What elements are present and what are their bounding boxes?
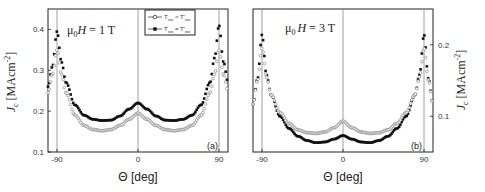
svg-text:0: 0 [136,155,141,164]
legend: Tsro < T'sro Tsro = T'sro [145,10,195,35]
series-open-circles [47,49,229,133]
svg-text:0.2: 0.2 [33,107,45,116]
field-annotation-a: μ0H = 1 T [67,23,116,39]
svg-text:-90: -90 [256,155,268,164]
figure: 0.10.20.30.4 -90090 μ0H = 1 T (a) Θ [deg… [0,0,485,192]
x-axis-ticks-a: -90090 [51,149,224,164]
open-circle-marker-icon [153,15,157,19]
svg-text:0.1: 0.1 [438,112,450,121]
svg-text:0: 0 [341,155,346,164]
series-open-circles [252,47,434,135]
y-axis-label-b: Jc [MAcm-2] [453,50,470,111]
svg-text:0.4: 0.4 [33,25,45,34]
y-axis-label-a: Jc [MAcm-2] [3,52,20,113]
svg-text:90: 90 [215,155,224,164]
x-axis-label-b: Θ [deg] [323,170,362,184]
svg-text:90: 90 [420,155,429,164]
filled-square-marker-icon [153,27,156,30]
x-axis-label-a: Θ [deg] [118,170,157,184]
series-filled-squares [252,34,434,144]
panel-label-b: (b) [411,141,422,151]
data-series-a [47,25,229,133]
x-axis-ticks-b: -90090 [256,149,429,164]
svg-text:0.2: 0.2 [438,41,450,50]
field-annotation-b: μ0H = 3 T [285,21,336,37]
panel-a: 0.10.20.30.4 -90090 μ0H = 1 T (a) Θ [deg… [3,9,228,184]
panel-b: 0.10.2 -90090 μ0H = 3 T (b) Θ [deg] Jc [… [252,9,470,184]
panel-label-a: (a) [207,141,218,151]
svg-text:0.1: 0.1 [33,148,45,157]
svg-text:0.3: 0.3 [33,66,45,75]
svg-text:-90: -90 [51,155,63,164]
series-filled-squares [47,25,229,122]
data-series-b [252,34,434,144]
